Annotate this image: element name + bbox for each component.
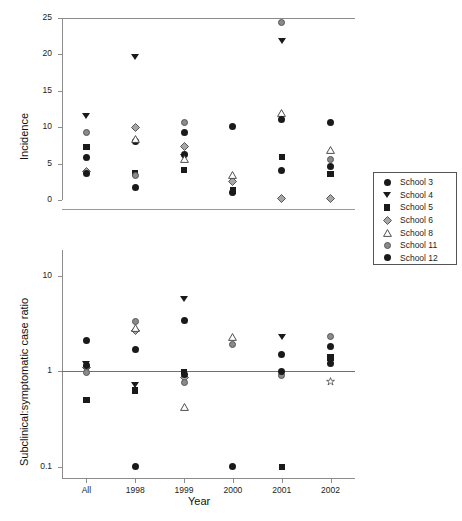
legend-label: School 3 [400, 177, 433, 187]
ratio-x-axis-line [62, 478, 355, 479]
incidence-y-ticklabel: 25 [26, 12, 52, 22]
year-x-tick [135, 479, 136, 483]
incidence-y-ticklabel: 20 [26, 48, 52, 58]
legend-marker-square-icon [374, 201, 400, 214]
year-x-tick [86, 479, 87, 483]
legend-item-school-5[interactable]: School 5 [374, 201, 454, 214]
legend: School 3School 4School 5School 6School 8… [373, 172, 457, 265]
x-axis-title-year: Year [188, 495, 210, 507]
legend-marker-circle-gray-icon [374, 239, 400, 252]
incidence-y-axis-line [62, 18, 63, 200]
incidence-y-tick [58, 18, 62, 19]
incidence-y-tick [58, 54, 62, 55]
y-axis-title-incidence: Incidence [18, 113, 30, 160]
legend-label: School 11 [400, 240, 437, 250]
legend-marker-circle-icon [374, 176, 400, 189]
incidence-y-tick [58, 127, 62, 128]
legend-item-school-3[interactable]: School 3 [374, 176, 454, 189]
incidence-y-tick [58, 200, 62, 201]
legend-rows: School 3School 4School 5School 6School 8… [374, 176, 454, 264]
incidence-top-spine [62, 18, 355, 19]
year-x-ticklabel: 2001 [262, 485, 302, 495]
ratio-reference-line [62, 371, 355, 372]
legend-item-school-12[interactable]: School 12 [374, 252, 454, 265]
ratio-y-ticklabel: 10 [26, 270, 52, 280]
year-x-tick [184, 479, 185, 483]
incidence-y-ticklabel: 15 [26, 85, 52, 95]
incidence-baseline [62, 209, 355, 210]
ratio-y-tick [58, 467, 62, 468]
legend-marker-triangle-up-icon [374, 226, 400, 239]
incidence-y-ticklabel: 0 [26, 194, 52, 204]
year-x-ticklabel: 1999 [164, 485, 204, 495]
legend-label: School 6 [400, 215, 433, 225]
year-x-ticklabel: All [66, 485, 106, 495]
legend-label: School 5 [400, 202, 433, 212]
ratio-panel: 0.1110All19981999200020012002 [0, 250, 462, 521]
year-x-ticklabel: 2002 [311, 485, 351, 495]
incidence-y-tick [58, 91, 62, 92]
ratio-y-axis-line [62, 250, 63, 478]
figure-root: 0510152025 0.1110All19981999200020012002… [0, 0, 462, 521]
ratio-y-tick [58, 276, 62, 277]
ratio-y-tick [58, 371, 62, 372]
legend-item-school-11[interactable]: School 11 [374, 239, 454, 252]
legend-label: School 4 [400, 190, 433, 200]
year-x-tick [282, 479, 283, 483]
legend-marker-circle-icon [374, 252, 400, 265]
legend-item-school-4[interactable]: School 4 [374, 189, 454, 202]
y-axis-title-ratio: Subclinical:symptomatic case ratio [18, 298, 30, 466]
year-x-tick [331, 479, 332, 483]
year-x-ticklabel: 1998 [115, 485, 155, 495]
legend-marker-triangle-down-icon [374, 189, 400, 202]
year-x-tick [233, 479, 234, 483]
legend-label: School 8 [400, 228, 433, 238]
legend-label: School 12 [400, 253, 438, 263]
legend-item-school-8[interactable]: School 8 [374, 226, 454, 239]
year-x-ticklabel: 2000 [213, 485, 253, 495]
incidence-y-tick [58, 164, 62, 165]
